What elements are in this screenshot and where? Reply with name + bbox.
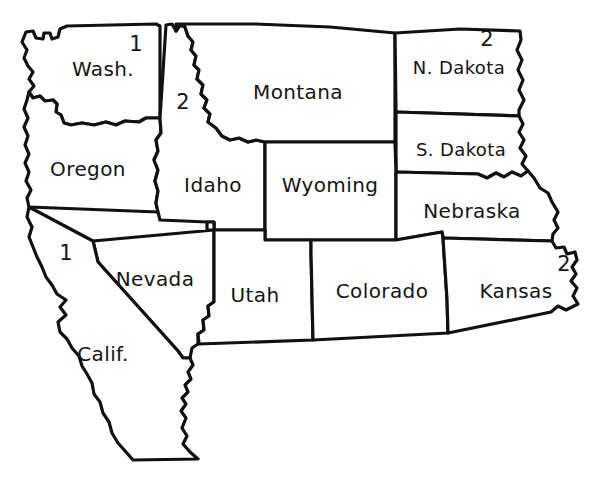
state-label-utah: Utah [230,283,279,307]
idaho-number: 2 [176,90,189,114]
state-label-colorado: Colorado [336,279,429,303]
state-label-south-dakota: S. Dakota [416,139,506,160]
state-label-washington: Wash. [72,57,134,81]
state-label-oregon: Oregon [50,157,126,181]
state-label-idaho: Idaho [184,173,242,197]
kansas-number: 2 [557,252,570,276]
state-label-nebraska: Nebraska [423,199,521,223]
state-label-california: Calif. [77,342,129,366]
state-label-wyoming: Wyoming [282,173,379,197]
map-container: Wash.OregonIdahoMontanaN. DakotaS. Dakot… [0,0,608,477]
state-label-kansas: Kansas [479,279,552,303]
washington-number: 1 [129,32,142,56]
north-dakota-number: 2 [480,27,493,51]
state-label-montana: Montana [253,80,343,104]
western-states-map: Wash.OregonIdahoMontanaN. DakotaS. Dakot… [0,0,608,477]
state-label-nevada: Nevada [116,267,195,291]
state-label-north-dakota: N. Dakota [413,57,505,78]
california-number: 1 [59,241,72,265]
